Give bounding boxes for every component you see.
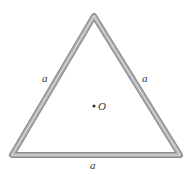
triangle-diagram: a a a O <box>0 0 193 174</box>
triangle-rod <box>12 16 180 155</box>
center-point-dot <box>92 104 95 107</box>
side-label-bottom: a <box>90 159 96 171</box>
side-label-left: a <box>42 72 48 84</box>
center-point-label: O <box>98 100 106 112</box>
side-label-right: a <box>142 72 148 84</box>
